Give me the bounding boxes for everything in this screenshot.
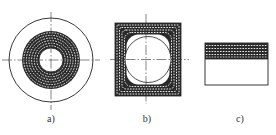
figure-c [205, 43, 268, 85]
diagram-canvas [0, 0, 276, 135]
label-a: a) [47, 114, 55, 124]
figure-a [2, 12, 100, 110]
label-b: b) [143, 114, 151, 124]
figure-b [110, 14, 189, 104]
layered-winding-bands [205, 43, 268, 59]
label-c: c) [236, 114, 244, 124]
centerlines-a [2, 12, 100, 110]
